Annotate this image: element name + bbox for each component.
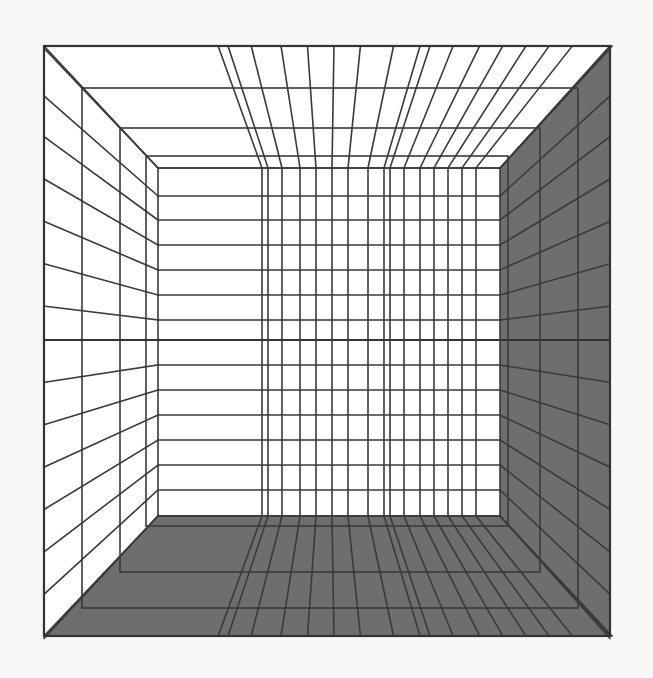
perspective-room-figure: One-point perspective grid room: [0, 0, 653, 678]
perspective-grid-drawing: [0, 0, 653, 678]
